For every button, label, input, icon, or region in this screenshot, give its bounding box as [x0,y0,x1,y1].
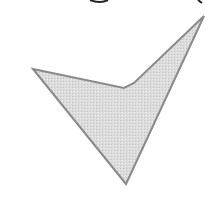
top-text-fragment-left [90,0,108,2]
figure-canvas [0,0,216,202]
arrowhead-shape-svg [0,0,216,202]
top-text-fragment-right [198,0,202,3]
arrowhead-shape [33,16,204,184]
